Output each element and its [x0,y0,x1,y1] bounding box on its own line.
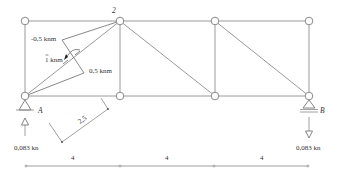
node-a [21,92,29,100]
extension-line-left [49,123,62,142]
support-b [300,92,318,112]
reaction-b-label: 0,083 kn [296,144,321,152]
dimension-tick [307,165,309,167]
arrow-down-icon [306,131,313,138]
dimension-line [62,109,108,142]
truss-members [25,21,309,96]
node-top-left [21,17,29,25]
reaction-a-label: 0,083 kn [14,144,39,152]
node-bottom-2 [116,92,124,100]
pin-support-icon [19,100,31,110]
node-a-label: A [37,106,43,115]
span-dimension [25,165,309,167]
extension-line-right [101,98,108,109]
dimension-tick [213,165,215,167]
node-top-3 [211,17,219,25]
diagonal-member-3 [215,21,309,96]
moment-applied-label: 1 knm [45,56,63,64]
node-b-label: B [320,106,325,115]
moment-upper-label: -0,5 knm [31,35,57,43]
node-bottom-3 [211,92,219,100]
reaction-b [306,117,313,138]
moment-lower-label: 0,5 knm [89,67,113,75]
node-b [305,92,313,100]
dimension-tick [107,108,109,110]
diagonal-member-1 [25,21,120,96]
diagonal-member-2 [120,21,215,96]
node-top-right [305,17,313,25]
arrow-up-icon [22,118,29,125]
node-2-label: 2 [112,6,116,15]
dimension-tick [25,165,27,167]
dimension-tick [61,141,63,143]
node-2 [116,17,124,25]
span-label-1: 4 [71,154,75,162]
span-label-3: 4 [260,154,264,162]
dimension-tick [119,165,121,167]
roller-support-icon [303,100,315,108]
reaction-a [22,118,29,136]
truss-diagram: 2 A B -0,5 knm 1 knm 0,5 knm 0,083 kn 0,… [0,0,342,176]
support-a [16,92,34,110]
span-label-2: 4 [165,154,169,162]
